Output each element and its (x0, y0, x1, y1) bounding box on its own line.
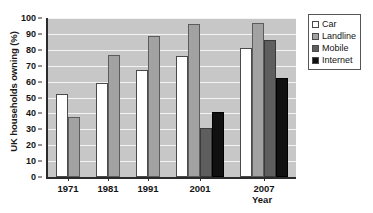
bar-car-1981 (96, 83, 108, 177)
legend-swatch-icon (312, 21, 319, 28)
y-axis-tick-labels: 0102030405060708090100 (12, 12, 42, 178)
legend-item-internet[interactable]: Internet (312, 54, 356, 66)
bar-group-1991 (136, 18, 160, 177)
x-tick-mark (68, 177, 69, 181)
y-tick-mark (38, 129, 42, 130)
x-tick-label: 1981 (97, 183, 118, 194)
legend-swatch-icon (312, 57, 319, 64)
legend-item-label: Internet (322, 56, 353, 65)
y-tick-mark (38, 81, 42, 82)
legend-swatch-icon (312, 45, 319, 52)
legend-item-mobile[interactable]: Mobile (312, 42, 356, 54)
x-tick-mark (264, 177, 265, 181)
x-tick-label: 1971 (57, 183, 78, 194)
x-tick-label: 2007 (253, 183, 274, 194)
bar-car-1991 (136, 70, 148, 177)
y-tick-label: 90 (26, 29, 36, 39)
bar-internet-2007 (276, 78, 288, 177)
bar-landline-1991 (148, 36, 160, 178)
x-tick-mark (200, 177, 201, 181)
y-tick-mark (38, 49, 42, 50)
y-tick-label: 60 (26, 77, 36, 87)
bar-car-2007 (240, 48, 252, 177)
legend-item-label: Car (322, 20, 337, 29)
legend-item-landline[interactable]: Landline (312, 30, 356, 42)
bar-mobile-2007 (264, 40, 276, 177)
x-tick-label: 2001 (189, 183, 210, 194)
bar-group-1981 (96, 18, 120, 177)
y-tick-mark (38, 177, 42, 178)
bar-chart-figure: UK households owning (%) 010203040506070… (0, 0, 373, 213)
bar-mobile-2001 (200, 128, 212, 177)
y-tick-mark (38, 145, 42, 146)
x-axis-title: Year (252, 194, 272, 205)
legend-item-label: Mobile (322, 44, 349, 53)
y-tick-mark (38, 33, 42, 34)
bar-landline-1981 (108, 55, 120, 177)
bar-groups (48, 18, 296, 177)
bar-landline-2001 (188, 24, 200, 177)
y-tick-label: 0 (31, 172, 36, 182)
x-tick-mark (108, 177, 109, 181)
legend-item-car[interactable]: Car (312, 18, 356, 30)
bar-landline-1971 (68, 117, 80, 177)
legend-item-label: Landline (322, 32, 356, 41)
bar-car-1971 (56, 94, 68, 177)
legend-swatch-icon (312, 33, 319, 40)
y-tick-mark (38, 18, 42, 19)
y-tick-mark (38, 97, 42, 98)
y-tick-label: 10 (26, 156, 36, 166)
bar-internet-2001 (212, 112, 224, 177)
chart-legend: CarLandlineMobileInternet (308, 14, 361, 70)
y-tick-label: 20 (26, 140, 36, 150)
bar-car-2001 (176, 56, 188, 177)
bar-group-1971 (56, 18, 80, 177)
y-tick-mark (38, 161, 42, 162)
x-tick-mark (148, 177, 149, 181)
bar-group-2001 (176, 18, 224, 177)
y-tick-mark (38, 113, 42, 114)
y-tick-mark (38, 65, 42, 66)
y-tick-label: 70 (26, 61, 36, 71)
y-tick-label: 100 (21, 13, 36, 23)
y-tick-label: 80 (26, 45, 36, 55)
plot-area (46, 18, 296, 179)
y-tick-label: 30 (26, 124, 36, 134)
y-tick-label: 40 (26, 108, 36, 118)
bar-group-2007 (240, 18, 288, 177)
x-tick-label: 1991 (137, 183, 158, 194)
y-tick-label: 50 (26, 93, 36, 103)
bar-landline-2007 (252, 23, 264, 177)
